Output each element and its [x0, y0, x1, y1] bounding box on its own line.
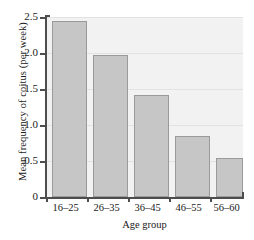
- y-tick-0-5: [40, 161, 45, 163]
- x-tick-label-46-55: 46–55: [167, 202, 210, 213]
- y-axis-top-cap: [45, 15, 50, 17]
- x-tick-label-36-45: 36–45: [126, 202, 169, 213]
- y-tick-label-1-0: 1.0: [0, 119, 38, 130]
- y-axis-title: Mean frequency of coitus (per week): [17, 2, 28, 202]
- y-tick-label-0: 0: [0, 191, 38, 202]
- y-tick-label-2-0: 2.0: [0, 47, 38, 58]
- x-axis-title: Age group: [45, 219, 244, 230]
- x-axis-right-cap: [242, 192, 244, 198]
- x-tick-label-56-60: 56–60: [205, 202, 248, 213]
- y-tick-1-5: [40, 89, 45, 91]
- bar-chart-figure: Mean frequency of coitus (per week) 2.5 …: [0, 0, 254, 240]
- bar-16-25[interactable]: [52, 21, 87, 197]
- x-axis-line: [45, 197, 244, 199]
- y-tick-0: [40, 197, 45, 199]
- y-axis-line: [45, 15, 47, 199]
- y-tick-label-1-5: 1.5: [0, 83, 38, 94]
- y-tick-label-2-5: 2.5: [0, 11, 38, 22]
- y-tick-label-0-5: 0.5: [0, 155, 38, 166]
- bar-36-45[interactable]: [134, 95, 169, 197]
- x-tick-label-26-35: 26–35: [85, 202, 128, 213]
- bar-56-60[interactable]: [216, 158, 243, 197]
- x-tick-label-16-25: 16–25: [44, 202, 87, 213]
- bar-46-55[interactable]: [175, 136, 210, 197]
- y-tick-2-0: [40, 53, 45, 55]
- bar-26-35[interactable]: [93, 55, 128, 197]
- y-tick-2-5: [40, 17, 45, 19]
- plot-area: [46, 17, 243, 197]
- gridline-2-5: [46, 17, 243, 18]
- y-tick-1-0: [40, 125, 45, 127]
